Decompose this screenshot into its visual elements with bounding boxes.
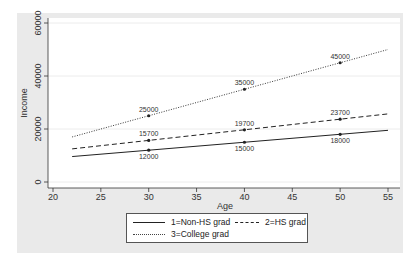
data-label: 45000 bbox=[330, 53, 350, 60]
y-tick-label: 40000 bbox=[33, 63, 43, 88]
data-point bbox=[339, 133, 342, 136]
data-label: 35000 bbox=[235, 79, 255, 86]
legend: 1=Non-HS grad 2=HS grad 3=College grad bbox=[126, 213, 308, 243]
data-point bbox=[243, 88, 246, 91]
y-tick-label: 60000 bbox=[33, 10, 43, 35]
x-tick-label: 20 bbox=[48, 192, 58, 202]
legend-label: 3=College grad bbox=[171, 229, 229, 239]
legend-item-non-hs: 1=Non-HS grad bbox=[133, 217, 230, 227]
data-label: 12000 bbox=[139, 153, 159, 160]
x-tick-label: 55 bbox=[383, 192, 393, 202]
legend-item-college: 3=College grad bbox=[133, 229, 229, 239]
x-tick-label: 35 bbox=[192, 192, 202, 202]
dashed-line-icon bbox=[235, 222, 259, 223]
x-tick-label: 40 bbox=[239, 192, 249, 202]
x-tick-label: 50 bbox=[335, 192, 345, 202]
data-point bbox=[339, 61, 342, 64]
x-axis-ticks: 2025303540455055 bbox=[48, 188, 393, 202]
data-label: 15000 bbox=[235, 145, 255, 152]
plot-area bbox=[48, 18, 400, 188]
data-point bbox=[339, 118, 342, 121]
data-label: 15700 bbox=[139, 130, 159, 137]
data-point bbox=[243, 141, 246, 144]
legend-label: 1=Non-HS grad bbox=[171, 217, 230, 227]
data-point bbox=[147, 114, 150, 117]
legend-label: 2=HS grad bbox=[265, 217, 306, 227]
y-tick-label: 0 bbox=[33, 179, 43, 184]
dotted-line-icon bbox=[133, 234, 165, 235]
x-axis-title: Age bbox=[217, 201, 233, 211]
legend-item-hs: 2=HS grad bbox=[235, 217, 306, 227]
x-tick-label: 45 bbox=[287, 192, 297, 202]
data-point bbox=[147, 149, 150, 152]
y-axis-ticks: 0200004000060000 bbox=[33, 10, 48, 184]
data-point bbox=[243, 128, 246, 131]
x-tick-label: 30 bbox=[144, 192, 154, 202]
data-label: 18000 bbox=[330, 137, 350, 144]
x-tick-label: 25 bbox=[96, 192, 106, 202]
data-label: 25000 bbox=[139, 106, 159, 113]
data-label: 23700 bbox=[330, 109, 350, 116]
solid-line-icon bbox=[133, 222, 165, 223]
data-label: 19700 bbox=[235, 120, 255, 127]
y-axis-title: Income bbox=[19, 88, 29, 118]
y-tick-label: 20000 bbox=[33, 116, 43, 141]
data-point bbox=[147, 139, 150, 142]
